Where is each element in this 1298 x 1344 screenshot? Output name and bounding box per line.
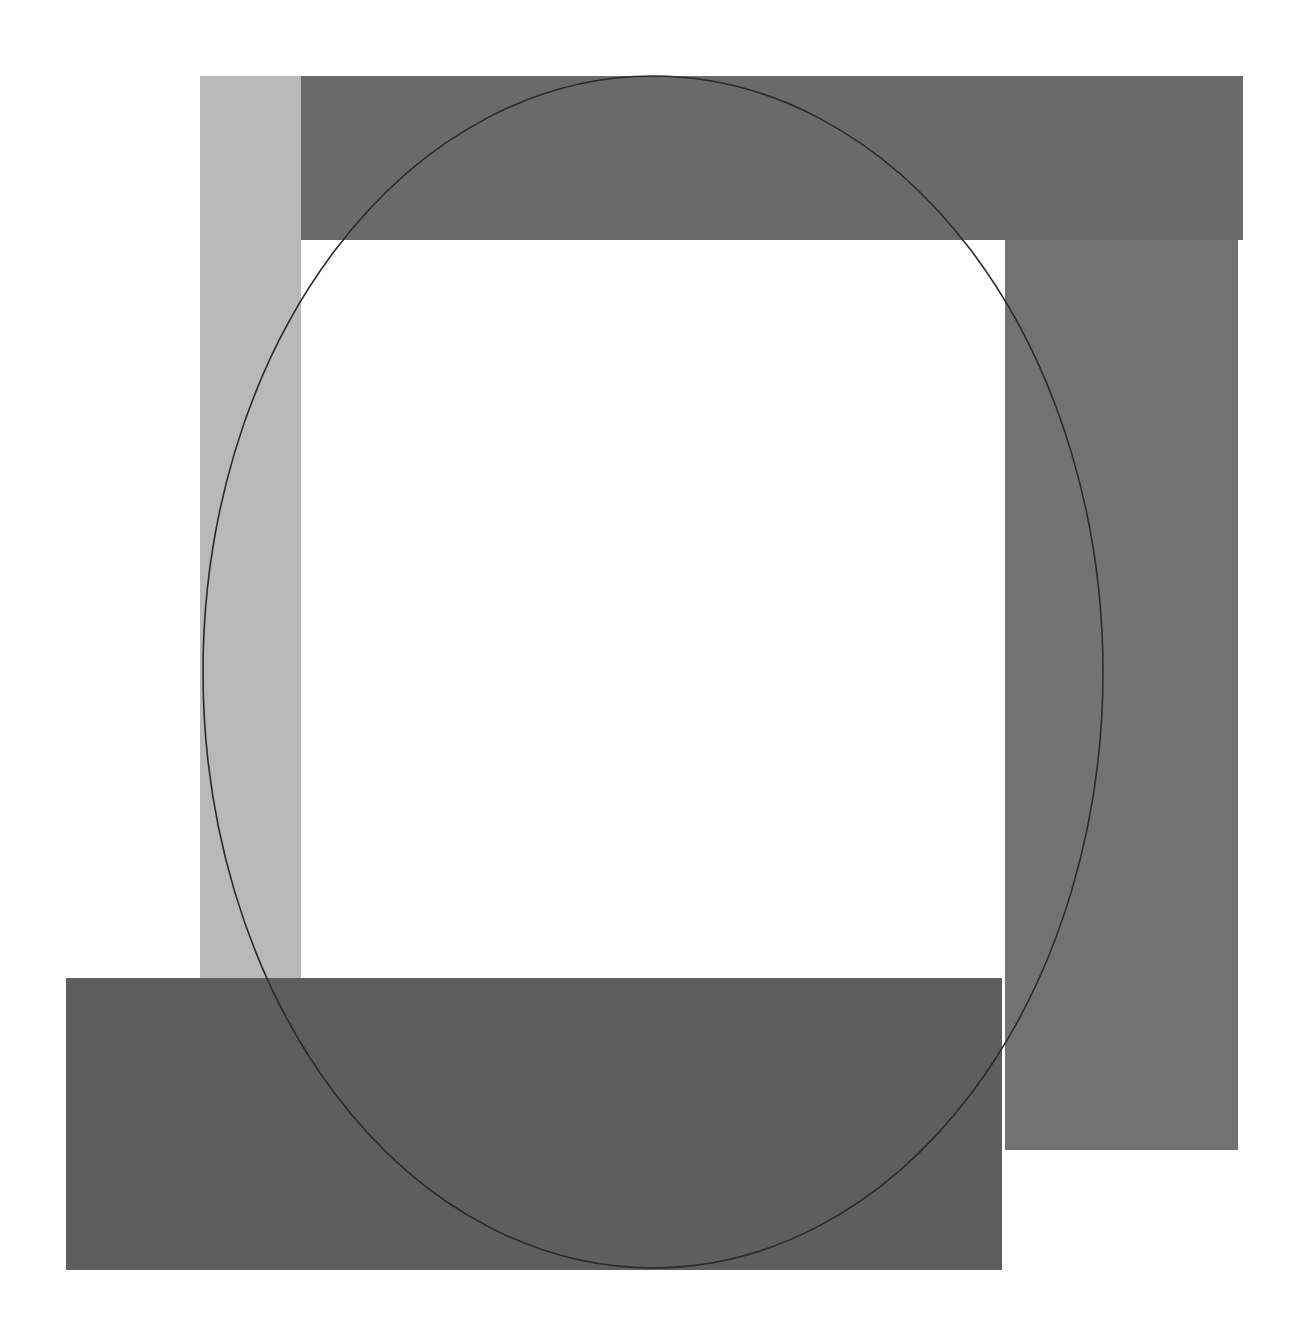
ellipse-outline (0, 0, 1298, 1344)
